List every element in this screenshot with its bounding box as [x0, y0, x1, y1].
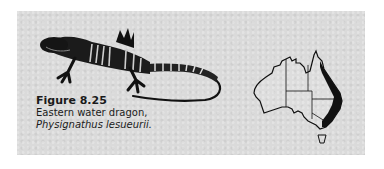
- australia-distribution-map-icon: [69, 11, 365, 155]
- figure-panel: Figure 8.25 Eastern water dragon, Physig…: [17, 11, 365, 155]
